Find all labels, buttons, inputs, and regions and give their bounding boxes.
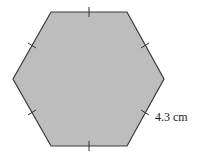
hexagon [13,12,164,146]
hexagon-diagram: 4.3 cm [0,0,202,157]
side-length-label: 4.3 cm [155,110,188,124]
